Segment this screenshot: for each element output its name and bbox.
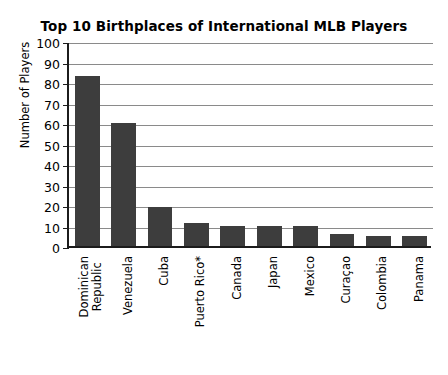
bar-series [69,41,433,246]
bar[interactable] [293,226,318,247]
bar[interactable] [402,236,427,246]
x-axis-tick-slot: Japan [249,252,285,372]
x-axis-tick-slot: Colombia [358,252,394,372]
x-axis-tick-label: Canada [231,256,244,300]
bar-slot [397,41,433,246]
x-axis-tick-label: Mexico [304,256,317,296]
x-axis-tick-label: Puerto Rico* [194,256,207,327]
x-axis-tick-slot: Mexico [285,252,321,372]
x-axis-tick-slot: Curaçao [322,252,358,372]
plot-area: 1009080706050403020100 [67,43,431,248]
y-axis-tick-label: 10 [44,220,60,235]
bar[interactable] [184,223,209,246]
x-axis-tick-label: Japan [267,256,280,288]
x-axis-tick-label: Cuba [158,256,171,286]
bar[interactable] [220,226,245,247]
y-axis-tick-label: 90 [44,56,60,71]
chart-title: Top 10 Birthplaces of International MLB … [0,18,448,34]
chart-figure: Top 10 Birthplaces of International MLB … [0,0,448,375]
bar-slot [360,41,396,246]
bar[interactable] [148,207,173,246]
x-axis-tick-labels: DominicanRepublicVenezuelaCubaPuerto Ric… [67,252,431,372]
bar-slot [142,41,178,246]
y-axis-tick-label: 30 [44,179,60,194]
bar-slot [215,41,251,246]
x-axis-tick-slot: Cuba [140,252,176,372]
bar-slot [287,41,323,246]
bar-slot [105,41,141,246]
bar[interactable] [330,234,355,246]
y-axis-tick-label: 40 [44,159,60,174]
x-axis-tick-slot: Panama [395,252,431,372]
y-axis-tick-label: 70 [44,97,60,112]
bar-slot [251,41,287,246]
x-axis-tick-label: Venezuela [122,256,135,315]
y-axis-tick-label: 20 [44,200,60,215]
bar-slot [324,41,360,246]
x-axis-tick-slot: Venezuela [103,252,139,372]
y-axis-tick [63,248,69,249]
bar[interactable] [111,123,136,246]
bar[interactable] [257,226,282,247]
x-axis-tick-slot: DominicanRepublic [67,252,103,372]
y-axis-tick-label: 50 [44,138,60,153]
bar[interactable] [75,76,100,246]
x-axis-tick-label: Colombia [376,256,389,310]
x-axis-tick-label: Panama [413,256,426,302]
x-axis-tick-slot: Canada [213,252,249,372]
x-axis-tick-label: DominicanRepublic [78,256,103,317]
y-axis-title: Number of Players [18,10,32,180]
x-axis-tick-label: Curaçao [340,256,353,304]
bar[interactable] [366,236,391,246]
bar-slot [69,41,105,246]
y-axis-tick-label: 0 [52,241,60,256]
bar-slot [178,41,214,246]
y-axis-tick-label: 60 [44,118,60,133]
x-axis-tick-slot: Puerto Rico* [176,252,212,372]
y-axis-tick-label: 100 [36,36,60,51]
y-axis-tick-label: 80 [44,77,60,92]
